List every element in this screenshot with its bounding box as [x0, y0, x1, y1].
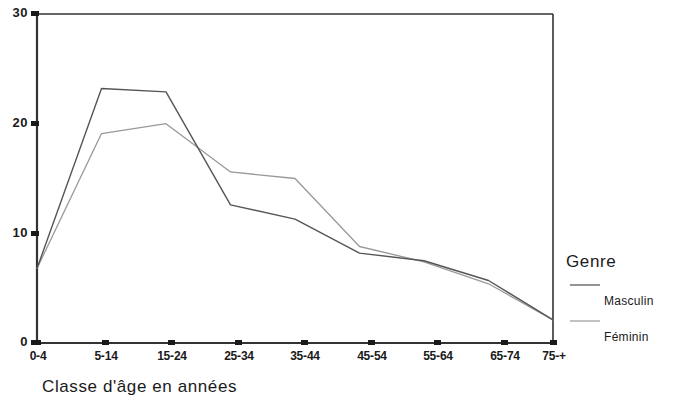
y-tick-label-20: 20	[0, 116, 28, 129]
x-tick-label-35-44: 35-44	[275, 350, 335, 362]
x-tick-label-45-54: 45-54	[342, 350, 402, 362]
y-tick-label-0: 0	[0, 335, 28, 348]
y-tick-label-30: 30	[0, 6, 28, 19]
x-tick-label-0-4: 0-4	[8, 350, 68, 362]
x-tick-label-5-14: 5-14	[76, 350, 136, 362]
series-line-masculin	[37, 89, 553, 320]
x-axis-title: Classe d'âge en années	[42, 377, 237, 397]
legend-swatches	[570, 285, 600, 321]
legend-label-feminin: Féminin	[604, 330, 649, 344]
y-tick-label-10: 10	[0, 226, 28, 239]
legend-label-masculin: Masculin	[604, 294, 654, 308]
x-tick-label-75-plus: 75-+	[524, 350, 584, 362]
x-tick-label-25-34: 25-34	[209, 350, 269, 362]
plot-area	[0, 0, 678, 403]
x-tick-label-15-24: 15-24	[142, 350, 202, 362]
x-tick-label-55-64: 55-64	[408, 350, 468, 362]
legend-title: Genre	[566, 252, 616, 272]
series-line-feminin	[37, 124, 553, 320]
line-chart: 30 20 10 0 0-4 5-14 15-24 25-34 35-44 45…	[0, 0, 678, 403]
